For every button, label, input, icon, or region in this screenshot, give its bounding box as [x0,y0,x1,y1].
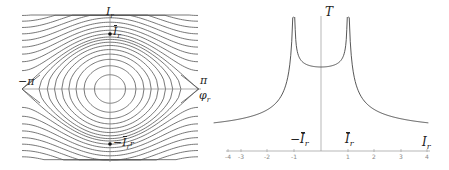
lower-point-label: −Irr [113,137,134,151]
x-tick-label: 4 [425,154,429,160]
period-horizontal-axis-label: Ir [422,136,431,151]
phase-portrait-plot [0,0,449,170]
x-tick-label: -2 [264,154,270,160]
phase-vertical-axis-label: Ir [106,6,114,20]
upper-point-label: Ir [113,26,121,40]
period-curve-right [348,17,428,123]
phase-horizontal-axis-label: φr [199,90,210,104]
x-tick-label: 2 [372,154,376,160]
right-pi-label: π [200,75,207,86]
lower-equilibrium-point [108,142,112,146]
period-curve-left [214,17,294,123]
left-pi-label: −π [18,76,34,87]
period-vertical-axis-label: T [325,6,333,18]
figure: Ir Ir −Irr −π π φr T −Ir Ir Ir -4 -3 -2 … [0,0,449,170]
neg-bar-I-label: −Ir [290,133,309,148]
period-plot [226,16,430,151]
pos-bar-I-label: Ir [345,133,354,148]
x-tick-label: 3 [399,154,403,160]
upper-equilibrium-point [108,32,112,36]
x-tick-label: -1 [291,154,297,160]
x-tick-label: -4 [225,154,231,160]
x-tick-label: 1 [346,154,350,160]
x-tick-label: -3 [238,154,244,160]
